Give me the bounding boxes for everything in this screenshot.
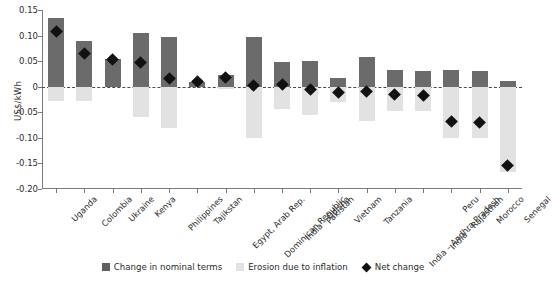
nominal-bar[interactable] <box>359 57 375 87</box>
y-axis-ticks: 0.150.100.050-0.05-0.10-0.15-0.20 <box>0 0 38 281</box>
erosion-bar[interactable] <box>161 87 177 128</box>
y-tick-label: -0.10 <box>0 134 38 142</box>
nominal-bar[interactable] <box>415 71 431 86</box>
legend-item-nominal: Change in nominal terms <box>102 262 222 272</box>
x-tick-mark <box>197 189 198 193</box>
x-tick-mark <box>480 189 481 193</box>
y-axis-line <box>42 10 43 189</box>
nominal-bar[interactable] <box>387 70 403 87</box>
bar-group[interactable] <box>472 10 488 189</box>
x-tick-mark <box>423 189 424 193</box>
bar-group[interactable] <box>161 10 177 189</box>
x-tick-mark <box>395 189 396 193</box>
legend-item-net-change: Net change <box>362 262 424 272</box>
y-tick-label: 0 <box>0 83 38 91</box>
x-tick-mark <box>113 189 114 193</box>
erosion-bar[interactable] <box>76 87 92 101</box>
dark-square-swatch-icon <box>102 263 110 271</box>
bar-group[interactable] <box>76 10 92 189</box>
x-axis-label: Tanzania <box>381 194 414 227</box>
x-tick-mark <box>169 189 170 193</box>
x-tick-mark <box>282 189 283 193</box>
erosion-bar[interactable] <box>218 87 234 90</box>
legend-label-nominal: Change in nominal terms <box>114 262 222 272</box>
bar-group[interactable] <box>105 10 121 189</box>
y-tick-label: 0.05 <box>0 57 38 65</box>
y-tick-label: -0.05 <box>0 108 38 116</box>
x-tick-mark <box>451 189 452 193</box>
legend-item-erosion: Erosion due to inflation <box>236 262 348 272</box>
nominal-bar[interactable] <box>443 70 459 87</box>
bar-group[interactable] <box>330 10 346 189</box>
y-tick-label: -0.20 <box>0 185 38 193</box>
bar-group[interactable] <box>246 10 262 189</box>
chart-legend: Change in nominal terms Erosion due to i… <box>0 262 526 272</box>
x-tick-mark <box>56 189 57 193</box>
x-tick-mark <box>226 189 227 193</box>
y-tick-label: 0.10 <box>0 32 38 40</box>
legend-label-net-change: Net change <box>375 262 424 272</box>
nominal-bar[interactable] <box>500 81 516 87</box>
x-tick-mark <box>310 189 311 193</box>
erosion-bar[interactable] <box>246 87 262 139</box>
bar-group[interactable] <box>189 10 205 189</box>
bar-group[interactable] <box>274 10 290 189</box>
erosion-bar[interactable] <box>133 87 149 117</box>
diamond-marker-swatch-icon <box>361 262 371 272</box>
x-axis-label: Vietnam <box>353 194 385 226</box>
x-tick-mark <box>338 189 339 193</box>
bar-group[interactable] <box>359 10 375 189</box>
bar-group[interactable] <box>443 10 459 189</box>
bar-group[interactable] <box>133 10 149 189</box>
x-tick-mark <box>367 189 368 193</box>
bar-group[interactable] <box>302 10 318 189</box>
nominal-bar[interactable] <box>472 71 488 86</box>
legend-label-erosion: Erosion due to inflation <box>248 262 348 272</box>
x-axis-label: Uganda <box>69 194 99 224</box>
light-square-swatch-icon <box>236 263 244 271</box>
x-axis-label: Kenya <box>152 194 177 219</box>
y-tick-label: 0.15 <box>0 6 38 14</box>
erosion-bar[interactable] <box>48 87 64 101</box>
bar-group[interactable] <box>218 10 234 189</box>
x-axis-label: Colombia <box>100 194 135 229</box>
erosion-bar[interactable] <box>443 87 459 138</box>
y-tick-mark <box>38 189 42 190</box>
plot-area <box>42 10 522 189</box>
x-tick-mark <box>141 189 142 193</box>
x-tick-mark <box>84 189 85 193</box>
y-tick-label: -0.15 <box>0 159 38 167</box>
x-tick-mark <box>254 189 255 193</box>
x-tick-mark <box>508 189 509 193</box>
erosion-bar[interactable] <box>472 87 488 138</box>
x-axis-label: Senegal <box>522 194 552 225</box>
